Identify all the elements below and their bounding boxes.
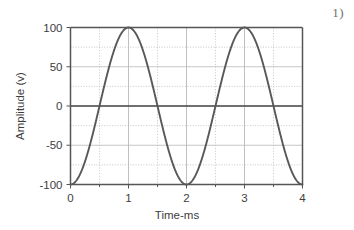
y-tick-label: -50 (46, 139, 63, 151)
y-tick-label: 50 (50, 61, 63, 73)
x-tick-label: 0 (67, 192, 73, 204)
y-tick-label: -100 (39, 179, 62, 191)
figure-container: 01234 -100-50050100 Time-ms Amplitude (v… (0, 0, 354, 230)
y-axis-title: Amplitude (v) (14, 72, 26, 140)
figure-number-label: 1) (332, 6, 344, 19)
x-tick-label: 4 (299, 192, 306, 204)
y-axis-tick-labels: -100-50050100 (39, 22, 62, 191)
y-tick-label: 0 (56, 100, 62, 112)
x-tick-label: 2 (183, 192, 189, 204)
axis-tick-marks (67, 28, 303, 189)
y-tick-label: 100 (43, 22, 62, 34)
amplitude-vs-time-chart: 01234 -100-50050100 Time-ms Amplitude (v… (0, 0, 354, 230)
x-tick-label: 1 (125, 192, 131, 204)
x-axis-tick-labels: 01234 (67, 192, 306, 204)
x-tick-label: 3 (241, 192, 247, 204)
x-axis-title: Time-ms (155, 209, 200, 221)
